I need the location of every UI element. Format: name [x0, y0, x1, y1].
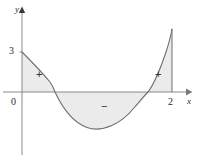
y-axis-label: y: [15, 5, 19, 14]
region-sign-right-positive: +: [155, 69, 161, 80]
y-axis-arrowhead: [19, 7, 25, 14]
x-tick-label-2: 2: [168, 97, 173, 107]
origin-label: 0: [11, 97, 16, 107]
x-axis-label: x: [187, 97, 191, 106]
y-tick-label-3: 3: [9, 46, 14, 56]
region-sign-middle-negative: −: [101, 101, 107, 112]
region-sign-left-positive: +: [36, 69, 42, 80]
shaded-region-positive-right: [148, 29, 172, 92]
x-axis-arrowhead: [186, 89, 193, 96]
plot-canvas: [0, 0, 198, 159]
figure-container: y x 3 0 2 + − +: [0, 0, 198, 159]
